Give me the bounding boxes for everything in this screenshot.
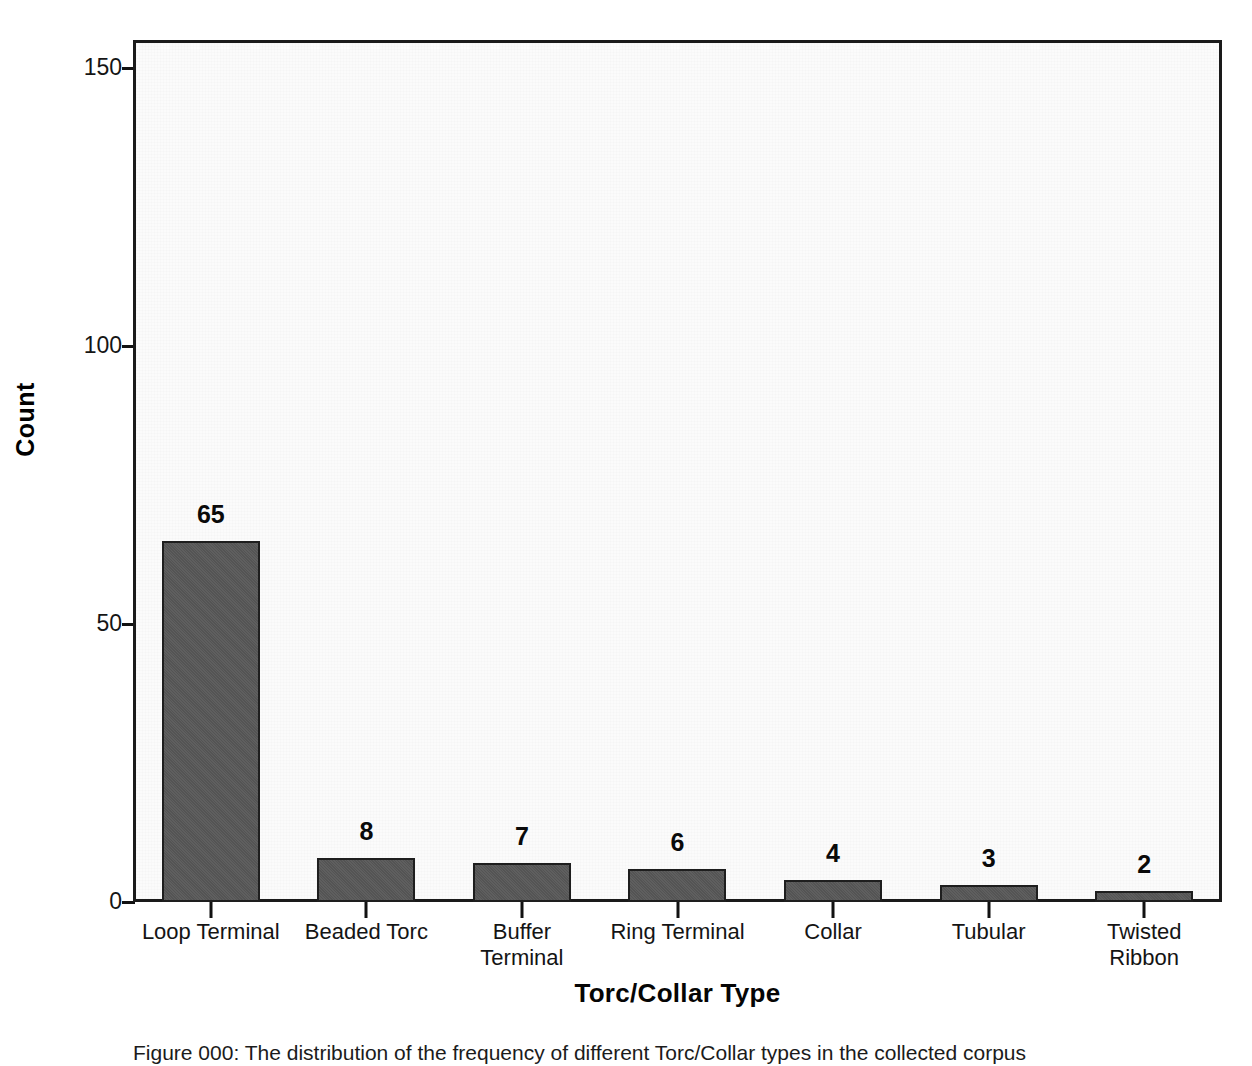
bar-slot: 65 xyxy=(133,40,289,902)
x-tick-label: Collar xyxy=(743,919,923,945)
x-tick-mark xyxy=(1143,902,1146,918)
bar-slot: 7 xyxy=(444,40,600,902)
bar-value-label: 4 xyxy=(826,839,840,868)
bar[interactable] xyxy=(784,880,882,902)
bar-value-label: 8 xyxy=(359,817,373,846)
bar[interactable] xyxy=(628,869,726,902)
x-tick-mark xyxy=(520,902,523,918)
bar-value-label: 2 xyxy=(1137,850,1151,879)
y-tick-label: 100 xyxy=(62,334,122,357)
x-tick-label-line: Twisted xyxy=(1054,919,1234,945)
bar[interactable] xyxy=(473,863,571,902)
x-tick-label-line: Ribbon xyxy=(1054,945,1234,971)
x-tick-mark xyxy=(832,902,835,918)
y-tick-label: 50 xyxy=(62,612,122,635)
x-tick-mark xyxy=(676,902,679,918)
figure-caption: Figure 000: The distribution of the freq… xyxy=(133,1040,1133,1066)
x-tick-label-line: Terminal xyxy=(432,945,612,971)
x-tick-label: Loop Terminal xyxy=(121,919,301,945)
x-tick-mark xyxy=(365,902,368,918)
bar-slot: 2 xyxy=(1066,40,1222,902)
x-tick-label: Tubular xyxy=(899,919,1079,945)
x-tick-label: Beaded Torc xyxy=(276,919,456,945)
x-tick-label: TwistedRibbon xyxy=(1054,919,1234,971)
x-tick-label-line: Beaded Torc xyxy=(276,919,456,945)
x-tick-label-line: Collar xyxy=(743,919,923,945)
bar-value-label: 3 xyxy=(982,844,996,873)
bar[interactable] xyxy=(940,885,1038,902)
bar-slot: 4 xyxy=(755,40,911,902)
x-tick-label-line: Tubular xyxy=(899,919,1079,945)
x-tick-label: BufferTerminal xyxy=(432,919,612,971)
y-axis-ticks: 050100150 xyxy=(60,0,122,1056)
y-tick-label: 150 xyxy=(62,56,122,79)
x-tick-label-line: Buffer xyxy=(432,919,612,945)
bar[interactable] xyxy=(162,541,260,902)
bars-layer: 65876432 xyxy=(133,40,1222,902)
bar-value-label: 6 xyxy=(671,828,685,857)
bar-slot: 6 xyxy=(600,40,756,902)
bar[interactable] xyxy=(1095,891,1193,902)
bar[interactable] xyxy=(317,858,415,902)
bar-slot: 3 xyxy=(911,40,1067,902)
bar-slot: 8 xyxy=(289,40,445,902)
x-tick-label-line: Ring Terminal xyxy=(588,919,768,945)
x-tick-mark xyxy=(987,902,990,918)
x-tick-label: Ring Terminal xyxy=(588,919,768,945)
bar-value-label: 7 xyxy=(515,822,529,851)
y-tick-label: 0 xyxy=(62,890,122,913)
y-axis-title: Count xyxy=(11,360,40,480)
x-axis-title: Torc/Collar Type xyxy=(133,978,1222,1009)
x-tick-mark xyxy=(209,902,212,918)
bar-value-label: 65 xyxy=(197,500,225,529)
x-tick-label-line: Loop Terminal xyxy=(121,919,301,945)
